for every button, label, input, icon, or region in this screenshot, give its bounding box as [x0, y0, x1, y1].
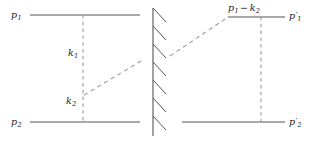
label-incoming-top-p1: p1 — [11, 10, 21, 20]
barrier-hatch-icon — [153, 62, 166, 76]
right-diagram-group — [170, 17, 285, 122]
label-outgoing-top-p1-prime: p′1 — [289, 11, 301, 21]
label-top-internal-p1-minus-k2: p1−k2 — [228, 3, 260, 13]
barrier-hatch-icon — [153, 44, 166, 58]
left-diagonal-exchange-dashed-line — [84, 61, 141, 95]
label-exchange-k2: k2 — [66, 96, 76, 106]
label-incoming-bottom-p2: p2 — [11, 117, 21, 127]
right-incoming-diagonal-dashed-line — [170, 17, 228, 56]
hatched-barrier-group — [153, 8, 166, 136]
diagram-vector-layer — [0, 0, 313, 143]
barrier-hatch-icon — [153, 98, 166, 112]
figure-canvas: p1 p2 k1 k2 p1−k2 p′1 p′2 — [0, 0, 313, 143]
label-outgoing-bottom-p2-prime: p′2 — [289, 117, 301, 127]
label-exchange-k1: k1 — [68, 48, 78, 58]
left-diagram-group — [30, 15, 141, 122]
barrier-hatch-icon — [153, 8, 166, 22]
barrier-hatch-icon — [153, 26, 166, 40]
barrier-hatch-icon — [153, 116, 166, 130]
barrier-hatch-icon — [153, 80, 166, 94]
